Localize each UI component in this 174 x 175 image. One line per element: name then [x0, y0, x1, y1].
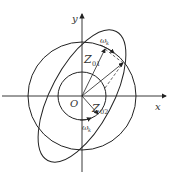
- z01-label: Z: [83, 53, 92, 66]
- diagram-canvas: y x O Z 01 Z 02 ω k ω k: [0, 0, 174, 175]
- dashed-link: [105, 49, 123, 63]
- omega-top-subscript: k: [106, 40, 109, 46]
- omega-top-arrow: [100, 45, 114, 53]
- y-axis-label: y: [71, 13, 78, 24]
- z01-subscript: 01: [92, 60, 100, 68]
- omega-bottom-subscript: k: [88, 127, 91, 133]
- z02-subscript: 02: [100, 108, 108, 116]
- origin-label: O: [70, 98, 78, 109]
- z02-label: Z: [91, 102, 100, 115]
- vector-to-intersection: [82, 63, 123, 96]
- x-axis-label: x: [155, 101, 161, 112]
